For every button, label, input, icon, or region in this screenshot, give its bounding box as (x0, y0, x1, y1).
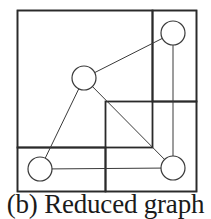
node-n-top-right (161, 21, 185, 45)
region-bottom-right (106, 102, 197, 192)
node-n-center (72, 66, 96, 90)
node-n-bottom-right (161, 156, 185, 180)
edge-n-bottom-left-n-bottom-right (52, 168, 161, 169)
figure-caption: (b) Reduced graph (0, 190, 211, 218)
reduced-graph-diagram (0, 0, 211, 219)
node-n-bottom-left (28, 157, 52, 181)
edge-n-center-n-bottom-right (92, 87, 164, 160)
graph-edges (45, 38, 173, 168)
